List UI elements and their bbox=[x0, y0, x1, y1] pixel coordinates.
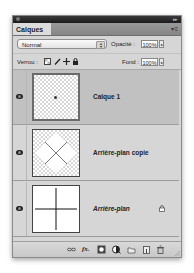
fill-input[interactable]: 100% bbox=[141, 58, 158, 66]
visibility-toggle[interactable] bbox=[13, 70, 27, 124]
new-layer-icon[interactable] bbox=[142, 245, 151, 254]
resize-grip-icon[interactable] bbox=[174, 250, 180, 256]
layer-row-calque-1[interactable]: Calque 1 bbox=[13, 70, 179, 125]
layers-panel: ▸▸ Calques ▾≡ Normal ▴▾ Opacité : 100% ▸… bbox=[12, 15, 182, 258]
visibility-toggle[interactable] bbox=[13, 126, 27, 180]
visibility-toggle[interactable] bbox=[13, 182, 27, 236]
delete-layer-icon[interactable] bbox=[156, 245, 165, 254]
layer-name[interactable]: Calque 1 bbox=[93, 93, 120, 100]
layer-name[interactable]: Arrière-plan bbox=[93, 205, 130, 212]
layer-row-arriere-plan[interactable]: Arrière-plan bbox=[13, 182, 179, 237]
lock-transparent-pixels-icon[interactable] bbox=[44, 58, 51, 65]
opacity-label: Opacité : bbox=[111, 40, 135, 48]
panel-tab-bar: Calques ▾≡ bbox=[13, 23, 181, 36]
add-mask-icon[interactable] bbox=[97, 245, 106, 254]
layer-row-arriere-plan-copie[interactable]: Arrière-plan copie bbox=[13, 126, 179, 181]
layer-style-fx-icon[interactable]: fx. bbox=[82, 245, 91, 254]
eye-icon[interactable] bbox=[16, 94, 23, 99]
blend-mode-value: Normal bbox=[22, 42, 41, 48]
new-group-icon[interactable] bbox=[127, 245, 136, 254]
lock-image-pixels-icon[interactable] bbox=[54, 58, 61, 65]
tab-calques[interactable]: Calques bbox=[13, 23, 51, 35]
lock-icon bbox=[159, 205, 165, 212]
fill-label: Fond : bbox=[122, 58, 139, 66]
blend-mode-select[interactable]: Normal ▴▾ bbox=[17, 39, 107, 49]
lock-label: Verrou : bbox=[17, 58, 38, 66]
close-icon[interactable] bbox=[16, 17, 20, 21]
adjustment-layer-icon[interactable] bbox=[112, 245, 121, 254]
layers-list: Calque 1 Arrière-plan copie bbox=[13, 70, 181, 238]
layer-name[interactable]: Arrière-plan copie bbox=[93, 149, 149, 156]
layer-thumbnail bbox=[32, 73, 80, 121]
blend-options-row: Normal ▴▾ Opacité : 100% ▸ bbox=[13, 36, 181, 54]
layer-thumbnail bbox=[32, 185, 80, 233]
fill-slider-button[interactable]: ▸ bbox=[159, 58, 164, 66]
opacity-slider-button[interactable]: ▸ bbox=[159, 40, 164, 48]
panel-menu-icon[interactable]: ▾≡ bbox=[169, 26, 178, 32]
lock-position-icon[interactable] bbox=[63, 58, 70, 65]
collapse-icon[interactable]: ▸▸ bbox=[173, 17, 178, 21]
link-layers-icon[interactable] bbox=[67, 245, 76, 254]
panel-titlebar[interactable]: ▸▸ bbox=[13, 16, 181, 23]
layers-footer-toolbar: fx. bbox=[13, 241, 181, 257]
eye-icon[interactable] bbox=[16, 206, 23, 211]
lock-row: Verrou : Fond : 100% ▸ bbox=[13, 54, 181, 70]
select-arrows-icon: ▴▾ bbox=[96, 41, 105, 49]
opacity-input[interactable]: 100% bbox=[141, 40, 158, 48]
layer-thumbnail bbox=[32, 129, 80, 177]
lock-all-icon[interactable] bbox=[72, 58, 79, 65]
eye-icon[interactable] bbox=[16, 150, 23, 155]
